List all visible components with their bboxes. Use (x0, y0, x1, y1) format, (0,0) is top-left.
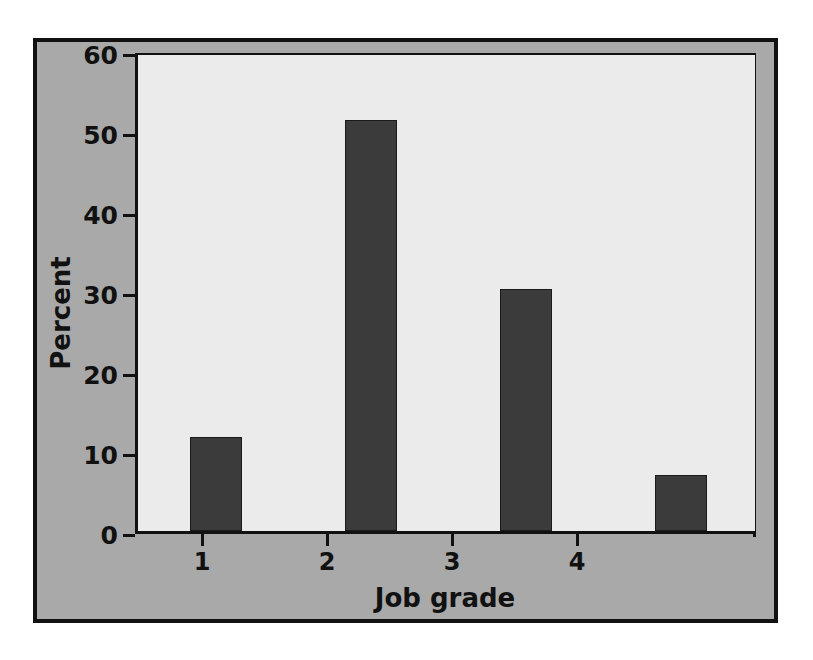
y-tick-label-0-wrap: 0 (50, 521, 118, 551)
y-tick-0 (123, 534, 135, 537)
x-tick-2 (326, 534, 329, 546)
y-tick-label-60: 60 (58, 41, 118, 70)
y-tick-30 (123, 294, 135, 297)
x-tick-label-2: 2 (297, 548, 357, 576)
y-tick-10 (123, 454, 135, 457)
figure: 60 50 40 30 20 10 0 1 2 3 4 Job grade Pe… (0, 0, 813, 660)
x-tick-1 (201, 534, 204, 546)
y-tick-60 (123, 54, 135, 57)
bar-3 (500, 289, 552, 531)
bar-2 (345, 120, 397, 531)
x-axis-title: Job grade (135, 583, 755, 613)
plot-area (135, 55, 755, 534)
y-tick-label-40: 40 (58, 201, 118, 230)
x-tick-label-3: 3 (422, 548, 482, 576)
y-axis-title: Percent (46, 228, 76, 398)
y-tick-40 (123, 214, 135, 217)
bar-1 (190, 437, 242, 531)
x-tick-4 (576, 534, 579, 546)
y-tick-50 (123, 134, 135, 137)
y-tick-20 (123, 374, 135, 377)
y-tick-label-0: 0 (58, 521, 118, 550)
x-tick-3 (451, 534, 454, 546)
x-tick-label-1: 1 (172, 548, 232, 576)
y-tick-label-50-wrap: 50 (50, 121, 118, 151)
x-tick-label-4: 4 (547, 548, 607, 576)
y-tick-label-40-wrap: 40 (50, 201, 118, 231)
y-tick-label-10-wrap: 10 (50, 441, 118, 471)
y-tick-label-10: 10 (58, 441, 118, 470)
y-tick-label-60-wrap: 60 (50, 41, 118, 71)
bar-4 (655, 475, 707, 531)
y-tick-label-50: 50 (58, 121, 118, 150)
